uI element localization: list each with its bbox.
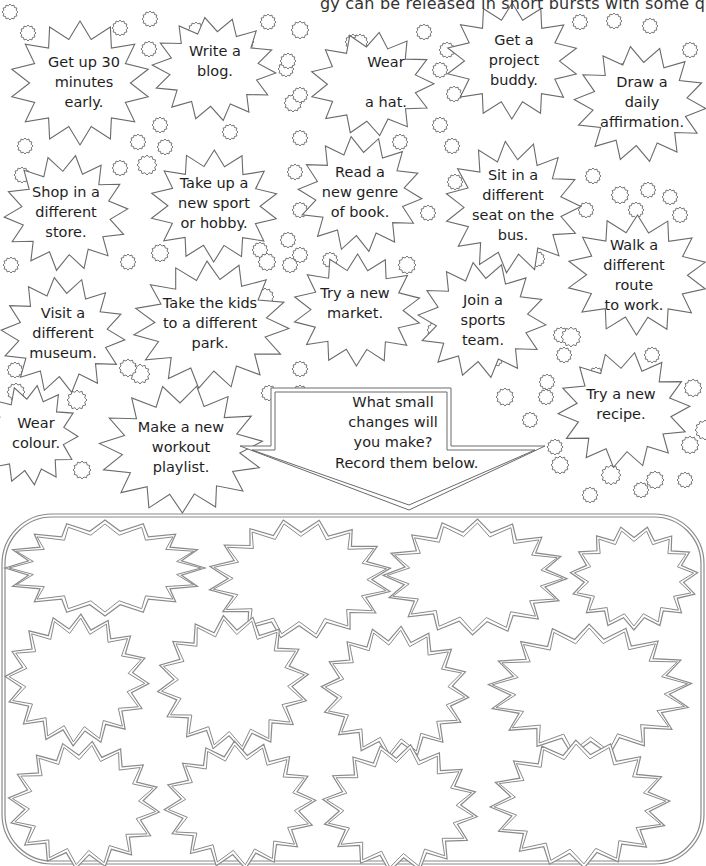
sun-icon (633, 482, 649, 498)
sun-icon (17, 138, 33, 154)
sun-icon (572, 14, 588, 30)
idea-burst-label: Make a new workout playlist. (138, 417, 224, 477)
sun-icon (682, 42, 698, 58)
sun-icon (447, 174, 463, 190)
sun-icon (446, 86, 462, 102)
sun-icon (601, 465, 621, 485)
idea-burst-label: Walk a different route to work. (598, 235, 670, 315)
sun-icon (157, 139, 173, 155)
sun-icon (120, 254, 136, 270)
sun-icon (539, 374, 555, 390)
blank-burst-input-inner (327, 749, 474, 866)
idea-burst-label: Sit in a different seat on the bus. (472, 165, 554, 245)
sun-icon (291, 21, 309, 39)
blank-burst-input-inner (12, 745, 155, 864)
sun-icon (398, 256, 416, 274)
sun-icon (287, 164, 303, 180)
sun-icon (672, 207, 688, 223)
sun-icon (260, 14, 276, 30)
sun-icon (585, 168, 601, 184)
worksheet-page: gy can be released in short bursts with … (0, 0, 706, 866)
sun-icon (420, 205, 436, 221)
sun-icon (538, 389, 554, 405)
idea-burst-label: Write a blog. (189, 41, 241, 81)
sun-icon (551, 456, 569, 474)
idea-burst-label: Join a sports team. (461, 290, 506, 350)
sun-icon (522, 412, 538, 428)
idea-burst-label: Visit a different museum. (29, 303, 97, 363)
sun-icon (606, 13, 622, 29)
sun-icon (547, 439, 563, 455)
sun-icon (137, 155, 157, 175)
sun-icon (112, 160, 128, 176)
sun-icon (611, 186, 629, 204)
sun-icon (151, 244, 169, 262)
idea-burst-label: Wear colour. (12, 413, 60, 453)
sun-icon (628, 202, 644, 218)
sun-icon (681, 436, 699, 454)
sun-icon (677, 472, 693, 488)
sun-icon (67, 390, 87, 410)
idea-burst-label: Take the kids to a different park. (163, 293, 257, 353)
idea-burst-label: Try a new recipe. (586, 384, 655, 424)
sun-icon (646, 471, 664, 489)
idea-burst-label: Get up 30 minutes early. (48, 52, 120, 112)
blank-burst-input-inner (214, 524, 387, 634)
sun-icon (292, 361, 308, 377)
sun-icon (556, 347, 572, 363)
prompt-instruction: Record them below. (335, 453, 475, 473)
blank-burst-input-inner (162, 620, 305, 747)
idea-burst-label: Take up a new sport or hobby. (178, 173, 250, 233)
blank-burst-input-inner (9, 524, 201, 612)
sun-icon (142, 11, 158, 27)
sun-icon (141, 41, 157, 57)
sun-icon (130, 134, 146, 150)
sun-icon (582, 487, 598, 503)
idea-burst-label: Shop in a different store. (32, 182, 100, 242)
idea-burst-label: Read a new genre of book. (322, 162, 398, 222)
sun-icon (695, 420, 706, 440)
blank-burst-input-inner (325, 630, 465, 754)
sun-icon (112, 20, 128, 36)
sun-icon (640, 182, 656, 198)
prompt-question: What small changes will you make? (335, 392, 451, 452)
idea-burst-label: Get a project buddy. (489, 30, 539, 90)
sun-icon (222, 124, 238, 140)
sun-icon (432, 62, 448, 78)
sun-icon (496, 388, 514, 406)
idea-burst-label: Draw a daily affirmation. (600, 72, 684, 132)
sun-icon (73, 461, 91, 479)
sun-icon (444, 138, 460, 154)
sun-icon (280, 232, 296, 248)
sun-icon (416, 24, 432, 40)
sun-icon (292, 130, 308, 146)
blank-burst-input-inner (168, 745, 312, 865)
sun-icon (152, 117, 168, 133)
sun-icon (3, 257, 19, 273)
sun-icon (392, 134, 408, 150)
intro-text: gy can be released in short bursts with … (320, 0, 706, 13)
sun-icon (644, 347, 660, 363)
sun-icon (642, 18, 658, 34)
idea-burst-label: Wear a hat. (365, 52, 407, 112)
sun-icon (684, 379, 702, 397)
sun-icon (432, 117, 448, 133)
sun-icon (20, 25, 36, 41)
sun-icon (2, 4, 18, 20)
idea-burst-label: Try a new market. (320, 283, 389, 323)
sun-icon (662, 189, 678, 205)
sun-icon (578, 202, 594, 218)
